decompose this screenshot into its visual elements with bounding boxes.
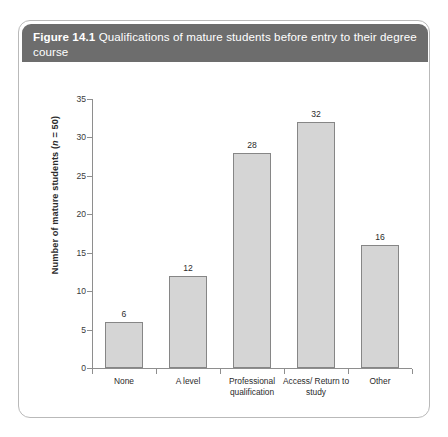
x-axis-tick-label: Access/ Return to study [280, 376, 352, 397]
x-axis-tick-mark [412, 369, 413, 374]
figure-number: Figure 14.1 [33, 30, 95, 43]
y-axis-tick-mark [87, 214, 92, 215]
bar-value-label: 16 [360, 232, 400, 242]
y-axis-tick-label: 15 [60, 248, 86, 258]
bar [361, 245, 399, 368]
figure-header: Figure 14.1 Qualifications of mature stu… [22, 24, 428, 62]
y-axis-tick-mark [87, 99, 92, 100]
bars-layer: 612283216 [92, 99, 412, 368]
y-axis-tick-label: 30 [60, 132, 86, 142]
x-axis-tick-labels: NoneA levelProfessional qualificationAcc… [92, 376, 412, 418]
x-axis-tick-label: Other [344, 376, 416, 387]
y-axis-tick-label: 20 [60, 209, 86, 219]
x-axis-tick-label: None [88, 376, 160, 387]
x-axis-tick-label: A level [152, 376, 224, 387]
y-axis-tick-label: 0 [60, 363, 86, 373]
x-axis-tick-mark [348, 369, 349, 374]
y-axis-tick-mark [87, 330, 92, 331]
y-axis-tick-mark [87, 137, 92, 138]
bar [105, 322, 143, 368]
x-axis-tick-mark [220, 369, 221, 374]
bar [233, 153, 271, 368]
bar-value-label: 6 [104, 309, 144, 319]
y-axis-tick-label: 5 [60, 325, 86, 335]
bar-chart: Number of mature students (n = 50) 05101… [19, 62, 429, 417]
bar [297, 122, 335, 368]
y-axis-tick-mark [87, 291, 92, 292]
x-axis-tick-mark [284, 369, 285, 374]
bar-value-label: 12 [168, 263, 208, 273]
x-axis-tick-label: Professional qualification [216, 376, 288, 397]
y-axis-tick-label: 25 [60, 171, 86, 181]
bar-value-label: 28 [232, 140, 272, 150]
figure-card: Figure 14.1 Qualifications of mature stu… [18, 20, 430, 418]
x-axis-tick-mark [92, 369, 93, 374]
y-axis-tick-labels: 05101520253035 [59, 62, 86, 417]
x-axis-line [92, 368, 412, 369]
bar-value-label: 32 [296, 109, 336, 119]
y-axis-tick-label: 10 [60, 286, 86, 296]
bar [169, 276, 207, 368]
y-axis-tick-mark [87, 253, 92, 254]
y-axis-tick-mark [87, 176, 92, 177]
x-axis-tick-mark [156, 369, 157, 374]
y-axis-tick-label: 35 [60, 94, 86, 104]
